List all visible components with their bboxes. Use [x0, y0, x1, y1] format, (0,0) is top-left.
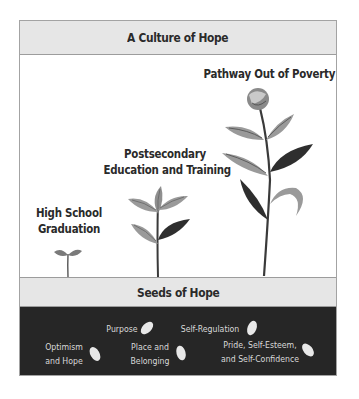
seed-icon-pride	[300, 341, 317, 358]
seeds-illustration	[0, 0, 359, 399]
seed-icon-optimism	[87, 345, 102, 362]
seed-icon-place	[175, 345, 188, 362]
seed-icon-self-regulation	[245, 319, 259, 336]
seed-icon-purpose	[139, 320, 156, 337]
